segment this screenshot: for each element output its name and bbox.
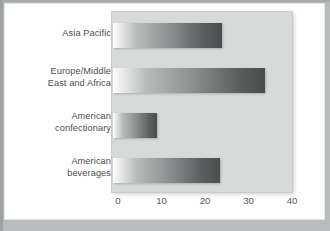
x-tick-label-10: 10 (156, 194, 167, 207)
bar-chart-figure: Asia Pacific Europe/Middle East and Afri… (5, 4, 324, 219)
bar-american-confectionary (113, 113, 157, 138)
x-axis: 0 10 20 30 40 (112, 194, 302, 210)
bar-american-beverages (113, 158, 220, 183)
x-tick-label-20: 20 (200, 194, 211, 207)
category-label-asia-pacific: Asia Pacific (17, 28, 111, 40)
x-tick-label-40: 40 (287, 194, 298, 207)
category-label-europe-middle-east-africa: Europe/Middle East and Africa (17, 66, 111, 89)
bar-europe-middle-east-africa (113, 68, 265, 93)
category-label-american-beverages: American beverages (17, 156, 111, 179)
chart-card: Asia Pacific Europe/Middle East and Afri… (5, 4, 324, 219)
bars-layer (112, 12, 292, 192)
x-tick-label-0: 0 (115, 194, 120, 207)
x-tick-label-30: 30 (243, 194, 254, 207)
page-background: Asia Pacific Europe/Middle East and Afri… (0, 0, 330, 231)
category-label-american-confectionary: American confectionary (17, 111, 111, 134)
plot-area (112, 12, 292, 192)
bar-asia-pacific (113, 23, 222, 48)
category-axis-labels: Asia Pacific Europe/Middle East and Afri… (17, 12, 111, 192)
